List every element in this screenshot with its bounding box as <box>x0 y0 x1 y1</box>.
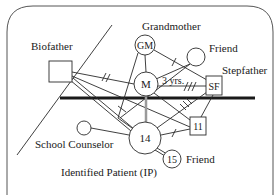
biofather-node <box>49 61 72 82</box>
friend-top-label: Friend <box>209 42 238 54</box>
grandmother-label: Grandmother <box>142 20 201 32</box>
biofather-label: Biofather <box>31 40 73 52</box>
fifteen-node-text: 15 <box>167 154 177 165</box>
school-counselor-label: School Counselor <box>35 138 114 150</box>
gm-node-text: GM <box>137 40 153 51</box>
stepfather-label: Stepfather <box>222 64 268 76</box>
identified-patient-label: Identified Patient (IP) <box>61 166 157 179</box>
ecomap-diagram: Biofather GM Grandmother Friend M 3 yrs.… <box>0 0 279 195</box>
m-node-text: M <box>141 78 151 90</box>
school-counselor-node <box>77 121 91 135</box>
sf-node-text: SF <box>208 81 220 92</box>
friend-bottom-label: Friend <box>186 153 215 165</box>
eleven-node-text: 11 <box>193 121 203 132</box>
duration-label: 3 yrs. <box>162 75 184 86</box>
friend-top-node <box>187 48 205 66</box>
fourteen-node-text: 14 <box>140 132 152 144</box>
